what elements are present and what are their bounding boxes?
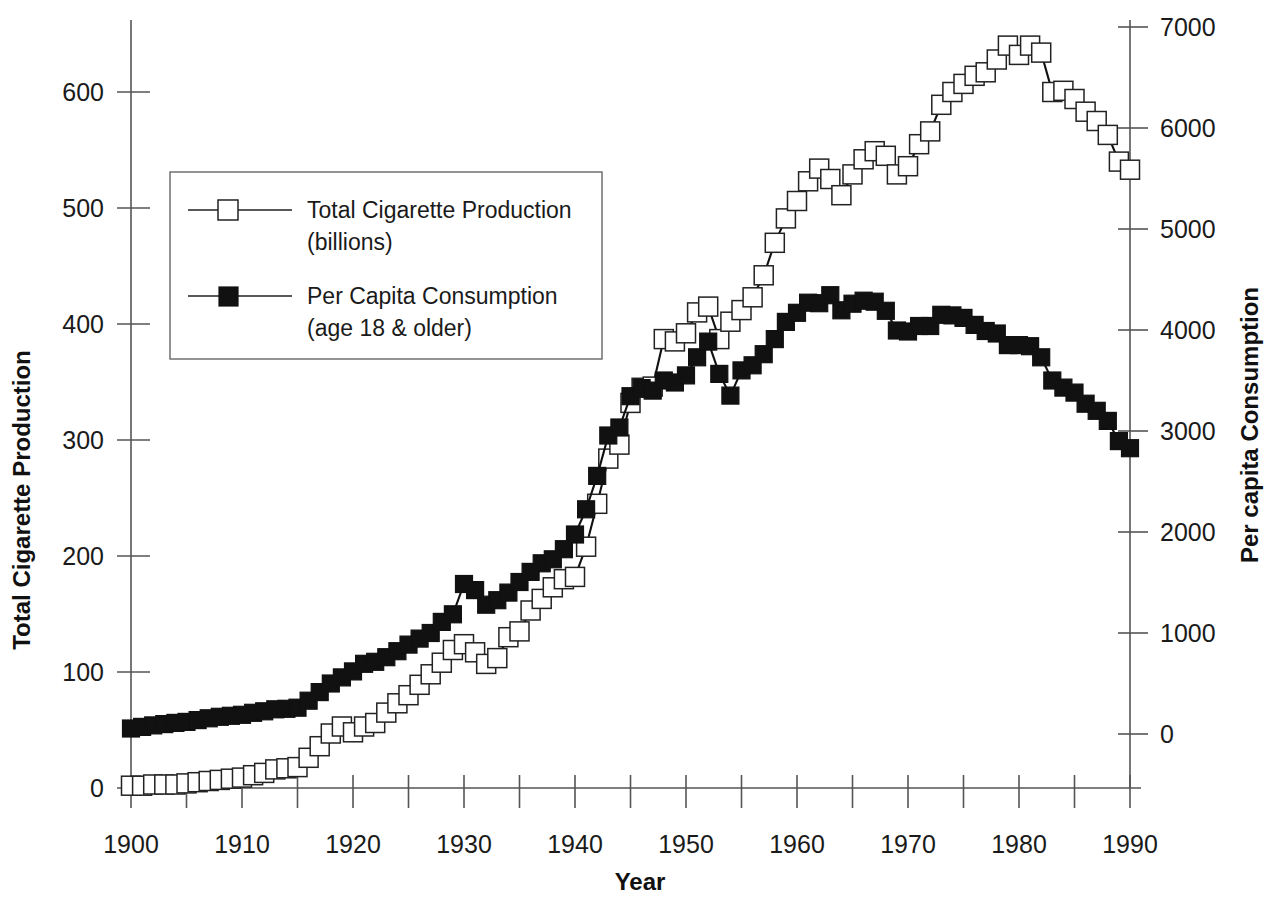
open-square-icon	[218, 200, 238, 220]
left-axis-title: Total Cigarette Production	[8, 350, 35, 650]
left-tick-label: 500	[62, 194, 104, 222]
legend-label-2-line2: (age 18 & older)	[307, 315, 472, 341]
filled-square-marker	[589, 467, 606, 484]
chart-container: 0100200300400500600 01000200030004000500…	[0, 0, 1279, 899]
filled-square-marker	[1033, 349, 1050, 366]
right-tick-label: 6000	[1160, 114, 1216, 142]
x-tick-label: 1900	[103, 830, 159, 858]
filled-square-marker	[877, 302, 894, 319]
open-square-marker	[1032, 43, 1051, 62]
filled-square-icon	[219, 287, 238, 306]
legend-label-1-line2: (billions)	[307, 229, 393, 255]
filled-square-marker	[711, 365, 728, 382]
open-square-marker	[566, 567, 585, 586]
open-square-marker	[899, 157, 918, 176]
right-tick-label: 5000	[1160, 215, 1216, 243]
right-axis-title: Per capita Consumption	[1236, 287, 1263, 563]
x-tick-label: 1970	[880, 830, 936, 858]
x-tick-label: 1910	[214, 830, 270, 858]
filled-square-marker	[689, 349, 706, 366]
open-square-marker	[788, 192, 807, 211]
open-square-marker	[677, 324, 696, 343]
legend-label-2-line1: Per Capita Consumption	[307, 283, 558, 309]
filled-square-marker	[678, 367, 695, 384]
filled-square-marker	[567, 526, 584, 543]
filled-square-marker	[1099, 412, 1116, 429]
filled-square-marker	[578, 501, 595, 518]
open-square-marker	[754, 266, 773, 285]
open-square-marker	[699, 297, 718, 316]
open-square-marker	[832, 186, 851, 205]
open-square-marker	[876, 146, 895, 165]
legend-label-1-line1: Total Cigarette Production	[307, 197, 572, 223]
right-tick-label: 7000	[1160, 13, 1216, 41]
filled-square-marker	[1122, 440, 1139, 457]
open-square-marker	[1121, 160, 1140, 179]
x-tick-label: 1950	[658, 830, 714, 858]
x-tick-label: 1990	[1102, 830, 1158, 858]
x-axis-title: Year	[615, 868, 666, 895]
right-tick-label: 3000	[1160, 417, 1216, 445]
open-square-marker	[488, 649, 507, 668]
open-square-marker	[1098, 125, 1117, 144]
left-tick-label: 100	[62, 658, 104, 686]
x-tick-label: 1940	[547, 830, 603, 858]
x-tick-label: 1960	[769, 830, 825, 858]
left-tick-label: 300	[62, 426, 104, 454]
right-tick-label: 1000	[1160, 619, 1216, 647]
x-tick-label: 1920	[325, 830, 381, 858]
right-tick-label: 4000	[1160, 316, 1216, 344]
left-tick-label: 400	[62, 310, 104, 338]
filled-square-marker	[611, 419, 628, 436]
right-tick-label: 0	[1160, 720, 1174, 748]
left-tick-label: 200	[62, 542, 104, 570]
open-square-marker	[743, 288, 762, 307]
left-tick-label: 0	[90, 774, 104, 802]
chart-legend: Total Cigarette Production (billions) Pe…	[170, 172, 602, 359]
cigarette-production-consumption-chart: 0100200300400500600 01000200030004000500…	[0, 0, 1279, 899]
filled-square-marker	[722, 387, 739, 404]
x-tick-label: 1980	[991, 830, 1047, 858]
open-square-marker	[510, 622, 529, 641]
right-tick-label: 2000	[1160, 518, 1216, 546]
filled-square-marker	[822, 287, 839, 304]
filled-square-marker	[755, 346, 772, 363]
filled-square-marker	[700, 333, 717, 350]
open-square-marker	[776, 209, 795, 228]
filled-square-marker	[444, 606, 461, 623]
x-tick-label: 1930	[436, 830, 492, 858]
open-square-marker	[921, 122, 940, 141]
chart-background	[0, 0, 1279, 899]
filled-square-marker	[766, 331, 783, 348]
open-square-marker	[765, 233, 784, 252]
left-tick-label: 600	[62, 78, 104, 106]
